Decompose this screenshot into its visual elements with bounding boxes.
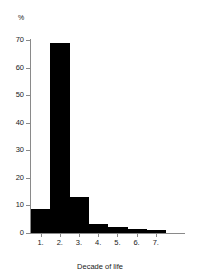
y-axis-tick (26, 68, 30, 69)
x-axis-tick-label: 7. (148, 239, 164, 247)
y-axis-tick (26, 205, 30, 206)
x-axis-tick-label: 5. (109, 239, 125, 247)
y-axis-tick-label: 40 (2, 119, 24, 127)
x-axis-tick (79, 233, 80, 237)
y-axis-tick-label: 30 (2, 146, 24, 154)
y-axis-tick (26, 150, 30, 151)
x-axis-tick (117, 233, 118, 237)
histogram-bar (50, 43, 70, 233)
histogram-bar (127, 229, 147, 233)
plot-area (31, 40, 185, 233)
histogram-bar (69, 197, 89, 233)
y-axis-tick-label: 20 (2, 174, 24, 182)
y-axis-tick-label: 0 (2, 229, 24, 237)
histogram-bar (31, 209, 51, 233)
y-axis-tick (26, 233, 30, 234)
x-axis-tick (156, 233, 157, 237)
histogram-figure: % 010203040506070 1.2.3.4.5.6.7. Decade … (0, 0, 200, 279)
x-axis-tick-label: 1. (33, 239, 49, 247)
y-axis-tick (26, 40, 30, 41)
x-axis-tick (137, 233, 138, 237)
x-axis-tick (98, 233, 99, 237)
x-axis-title: Decade of life (0, 262, 200, 271)
histogram-bar (89, 224, 109, 233)
x-axis-tick (60, 233, 61, 237)
x-axis-tick-label: 2. (52, 239, 68, 247)
y-axis-unit-label: % (18, 14, 24, 22)
y-axis-tick-label: 10 (2, 201, 24, 209)
x-axis-tick-label: 4. (90, 239, 106, 247)
y-axis-tick (26, 178, 30, 179)
y-axis-tick-label: 50 (2, 91, 24, 99)
y-axis-tick-label: 70 (2, 36, 24, 44)
x-axis-tick (41, 233, 42, 237)
y-axis-tick-label: 60 (2, 64, 24, 72)
histogram-bar (108, 227, 128, 233)
x-axis-tick-label: 3. (71, 239, 87, 247)
y-axis-tick (26, 123, 30, 124)
histogram-bar (146, 230, 166, 233)
y-axis-tick (26, 95, 30, 96)
x-axis-line (30, 233, 185, 234)
x-axis-tick-label: 6. (129, 239, 145, 247)
